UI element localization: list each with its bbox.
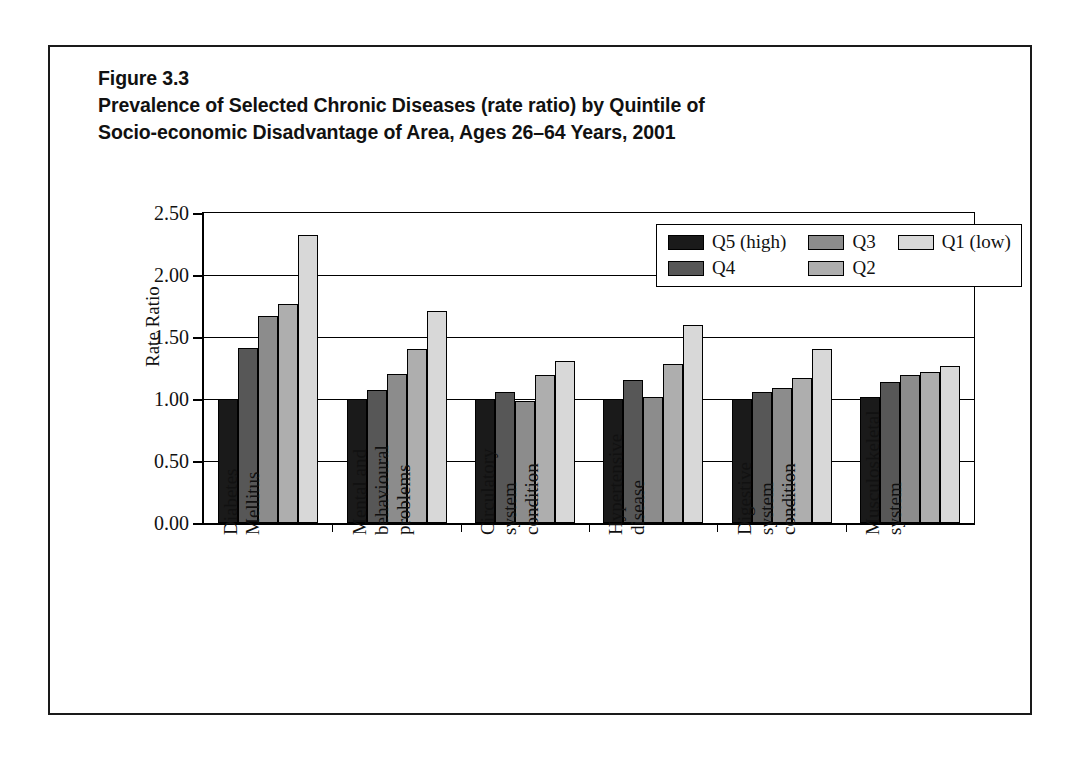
legend-swatch [668,261,704,276]
legend-label: Q4 [712,257,735,279]
chart-legend: Q5 (high)Q3Q1 (low)Q4Q2X [656,224,1022,287]
x-axis-label-line: problems [393,445,415,535]
legend-item[interactable]: Q2 [808,257,875,279]
x-axis-label-line: Digestive [734,462,756,535]
bar[interactable] [663,364,683,523]
bar[interactable] [683,325,703,523]
x-axis-label-line: disease [627,434,649,535]
x-axis-tick [589,523,590,532]
legend-swatch [808,261,844,276]
y-axis-tick-label: 1.00 [154,388,189,411]
bar-chart: Rate Ratio 0.000.501.001.502.002.50 Diab… [50,47,1034,717]
legend-item[interactable]: Q3 [808,231,875,253]
x-axis-label: DiabetesMellitus [220,469,264,535]
x-axis-label-line: system [884,410,906,535]
legend-swatch [808,235,844,250]
x-axis-label-line: system [499,448,521,535]
bar[interactable] [298,235,318,523]
legend-label: Q1 (low) [942,231,1011,253]
x-axis-label-line: condition [778,462,800,535]
bar[interactable] [920,372,940,523]
x-axis-label: Digestivesystemcondition [734,462,800,535]
x-axis-tick [846,523,847,532]
legend-item[interactable]: Q5 (high) [668,231,786,253]
bar[interactable] [555,361,575,523]
x-axis-label: Musculoskeletalsystem [862,410,906,535]
y-axis-tick-label: 1.50 [154,326,189,349]
bar[interactable] [812,349,832,523]
y-axis-tick [193,213,202,215]
x-axis-tick [461,523,462,532]
x-axis-label-line: Diabetes [220,469,242,535]
x-axis-tick [717,523,718,532]
x-axis-label-line: Mellitus [242,469,264,535]
x-axis-label-line: Hypertensive [605,434,627,535]
y-axis-tick [193,337,202,339]
y-axis-tick-label: 0.50 [154,450,189,473]
legend-label: Q5 (high) [712,231,786,253]
x-axis-label: Hypertensivedisease [605,434,649,535]
x-axis-label-line: behavioural [371,445,393,535]
x-axis-label: Circulatorysystemcondition [477,448,543,535]
x-axis-label-line: Musculoskeletal [862,410,884,535]
legend-label: Q3 [852,231,875,253]
bar[interactable] [427,311,447,523]
x-axis-label-line: system [756,462,778,535]
y-axis-tick [193,461,202,463]
y-axis-tick-label: 2.50 [154,202,189,225]
legend-item[interactable]: Q1 (low) [898,231,1011,253]
x-axis-label-line: condition [521,448,543,535]
bar[interactable] [278,304,298,523]
legend-label: Q2 [852,257,875,279]
x-axis-tick [332,523,333,532]
figure-frame: Figure 3.3 Prevalence of Selected Chroni… [48,45,1032,715]
bar[interactable] [940,366,960,523]
x-axis-label-line: Mental and [349,445,371,535]
y-axis-tick [193,275,202,277]
legend-swatch [898,235,934,250]
x-axis-label-line: Circulatory [477,448,499,535]
y-axis-tick [193,523,202,525]
x-axis-label: Mental andbehaviouralproblems [349,445,415,535]
y-axis-tick [193,399,202,401]
legend-swatch [668,235,704,250]
y-axis-tick-label: 0.00 [154,512,189,535]
y-axis-tick-label: 2.00 [154,264,189,287]
legend-item[interactable]: Q4 [668,257,786,279]
